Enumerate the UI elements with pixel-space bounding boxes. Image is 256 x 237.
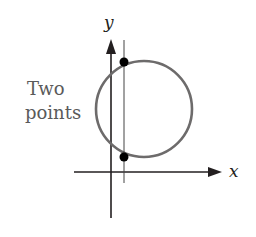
y-axis-label: y [103,12,114,32]
y-axis-arrow-icon [106,39,116,54]
x-axis-arrow-icon [208,167,222,177]
circle-vertical-line-test-diagram: x y Two points [0,0,256,237]
annotation-line-2: points [25,102,81,123]
annotation-line-1: Two [27,78,65,99]
intersection-point-bottom [120,153,129,162]
x-axis-label: x [229,161,239,181]
intersection-point-top [120,58,129,67]
